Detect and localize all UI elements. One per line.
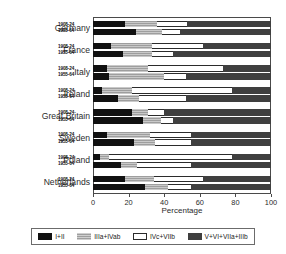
bar-segment (93, 176, 125, 182)
bar-segment (132, 87, 232, 93)
bar (93, 87, 271, 93)
bar-segment (118, 95, 139, 101)
stacked-bars (93, 109, 271, 123)
bar-segment (168, 184, 191, 190)
bar-segment (173, 117, 271, 123)
bar-segment (93, 154, 100, 160)
bar-segment (173, 51, 271, 57)
stacked-bars (93, 87, 271, 101)
bar-segment (143, 117, 161, 123)
bar-segment (100, 154, 109, 160)
bar (93, 43, 271, 49)
country-row: Ireland1908-241955-64 (0, 83, 286, 105)
bar-segment (186, 95, 271, 101)
stacked-bars (93, 154, 271, 168)
bar-segment (191, 162, 271, 168)
bar (93, 109, 271, 115)
chart-figure: Germany1908-241955-64France1908-241955-6… (0, 0, 286, 254)
legend-label: IVc+VIIb (150, 233, 175, 240)
bar-segment (93, 95, 118, 101)
stacked-bars (93, 176, 271, 190)
bar-segment (152, 43, 204, 49)
period-label: 1955-64 (58, 94, 91, 100)
period-labels: 1908-241955-64 (58, 132, 91, 144)
bar-segment (93, 51, 123, 57)
bar-segment (139, 95, 185, 101)
bar (93, 21, 271, 27)
country-row: France1908-241955-64 (0, 39, 286, 61)
legend-swatch (77, 233, 91, 240)
bar-segment (154, 176, 204, 182)
bar-segment (186, 73, 271, 79)
period-labels: 1908-241955-64 (58, 110, 91, 122)
legend-label: V+VI+VIIa+IIIb (205, 233, 248, 240)
period-labels: 1908-241955-64 (58, 22, 91, 34)
bar-segment (93, 184, 145, 190)
country-row: Sweden1908-241955-64 (0, 128, 286, 150)
bar-segment (109, 73, 164, 79)
bar-segment (191, 184, 271, 190)
bar-segment (136, 29, 163, 35)
chart-legend: I+IIIIIa+IVabIVc+VIIbV+VI+VIIa+IIIb (31, 228, 255, 245)
bar-segment (125, 21, 157, 27)
bar-segment (107, 132, 150, 138)
period-label: 1955-64 (58, 161, 91, 167)
bar (93, 51, 271, 57)
legend-swatch (38, 233, 52, 240)
bar-segment (93, 162, 121, 168)
bar-segment (134, 139, 155, 145)
stacked-bars (93, 65, 271, 79)
country-row: Great Britain1908-241955-64 (0, 106, 286, 128)
period-labels: 1908-241955-64 (58, 44, 91, 56)
bar-segment (191, 139, 271, 145)
legend-item[interactable]: IIIa+IVab (77, 233, 120, 240)
bar-segment (93, 139, 134, 145)
period-label: 1955-64 (58, 50, 91, 56)
bar-segment (121, 162, 137, 168)
period-label: 1955-64 (58, 72, 91, 78)
bar-segment (123, 51, 151, 57)
country-row: Italy1908-241955-64 (0, 61, 286, 83)
bar (93, 139, 271, 145)
bar-segment (164, 109, 271, 115)
bar-segment (93, 21, 125, 27)
bar (93, 95, 271, 101)
stacked-bars (93, 21, 271, 35)
bar (93, 184, 271, 190)
country-row: Netherlands1908-241955-64 (0, 172, 286, 194)
bar-segment (187, 21, 271, 27)
country-row: Germany1908-241955-64 (0, 17, 286, 39)
bar-segment (93, 132, 107, 138)
period-label: 1955-64 (58, 139, 91, 145)
legend-item[interactable]: I+II (38, 233, 64, 240)
period-label: 1955-64 (58, 117, 91, 123)
bar-segment (148, 65, 223, 71)
bar-segment (132, 109, 148, 115)
bar-segment (93, 73, 109, 79)
period-labels: 1908-241955-64 (58, 88, 91, 100)
legend-item[interactable]: V+VI+VIIa+IIIb (188, 233, 248, 240)
bar-segment (93, 117, 143, 123)
legend-swatch (188, 233, 202, 240)
bar-segment (203, 43, 271, 49)
bar (93, 29, 271, 35)
bar (93, 154, 271, 160)
bar-segment (109, 154, 232, 160)
bar-segment (93, 65, 107, 71)
x-tick (164, 194, 165, 197)
bar-segment (150, 132, 191, 138)
bar (93, 162, 271, 168)
bar-segment (223, 65, 271, 71)
x-axis: 020406080100 (93, 194, 271, 195)
bar (93, 176, 271, 182)
bar-segment (93, 87, 102, 93)
legend-item[interactable]: IVc+VIIb (133, 233, 175, 240)
bar-segment (203, 176, 271, 182)
stacked-bars (93, 43, 271, 57)
bar (93, 65, 271, 71)
legend-label: IIIa+IVab (94, 233, 120, 240)
bar (93, 73, 271, 79)
bar-rows-container: Germany1908-241955-64France1908-241955-6… (0, 17, 286, 194)
stacked-bars (93, 132, 271, 146)
x-tick (129, 194, 130, 197)
